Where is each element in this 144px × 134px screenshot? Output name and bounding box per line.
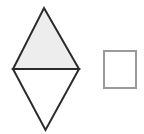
geometry-figure-canvas (0, 0, 144, 134)
rhombus-shape (13, 8, 79, 130)
square-shape (104, 51, 136, 88)
lower-triangle-unshaded (13, 69, 79, 130)
figure-svg (0, 0, 144, 134)
upper-triangle-shaded (13, 8, 79, 69)
